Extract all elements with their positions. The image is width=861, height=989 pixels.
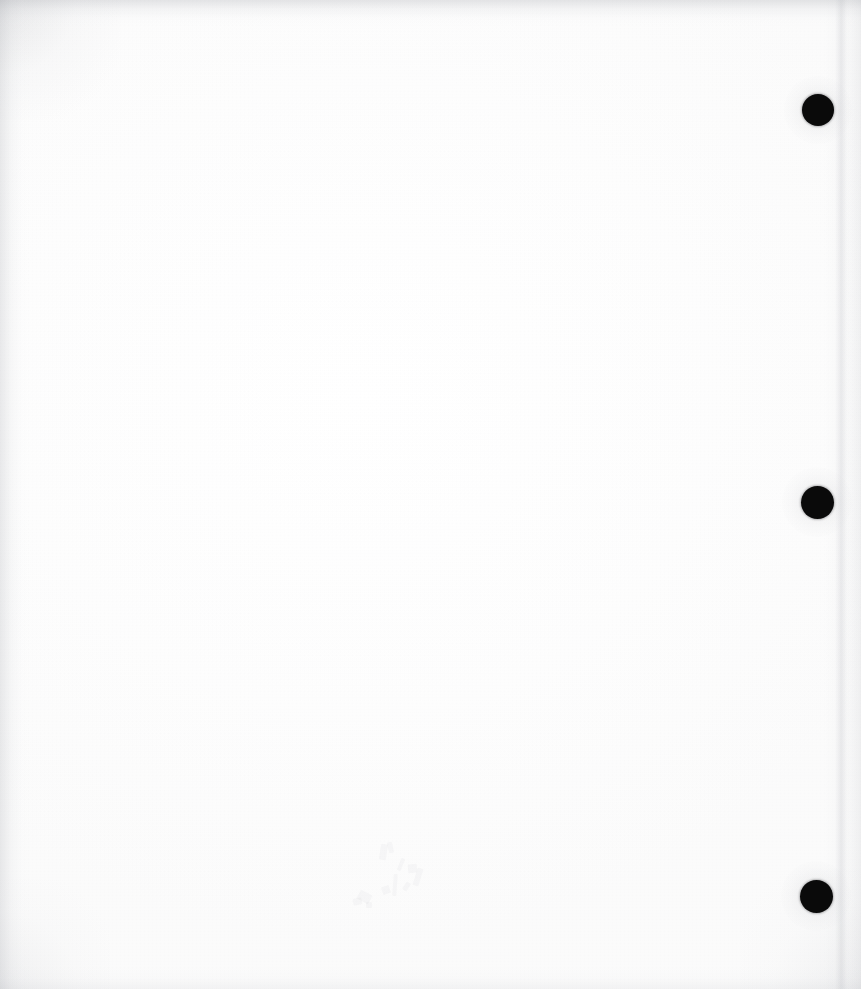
punch-hole-top <box>802 94 834 126</box>
punch-hole-bottom <box>800 880 833 913</box>
punch-hole-middle <box>801 486 834 519</box>
scanned-document-page <box>0 0 861 989</box>
paper-surface <box>0 0 861 989</box>
